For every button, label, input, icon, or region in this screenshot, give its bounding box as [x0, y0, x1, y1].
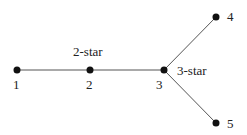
node-label-3: 3 — [156, 77, 163, 92]
node-label-4: 4 — [227, 9, 234, 24]
node-5 — [213, 120, 220, 127]
node-4 — [213, 14, 220, 21]
three-star-annotation: 3-star — [177, 63, 207, 78]
graph-diagram: 1 2 3 4 5 2-star 3-star — [0, 0, 247, 135]
node-label-1: 1 — [13, 77, 20, 92]
two-star-annotation: 2-star — [73, 44, 103, 59]
node-1 — [14, 67, 21, 74]
node-label-2: 2 — [86, 77, 93, 92]
node-2 — [87, 67, 94, 74]
node-label-5: 5 — [227, 116, 234, 131]
node-3 — [161, 67, 168, 74]
